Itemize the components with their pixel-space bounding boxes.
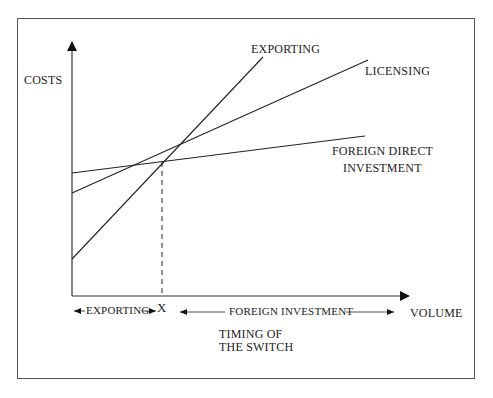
foreign-investment-region-label: FOREIGN INVESTMENT [229,305,353,317]
licensing-line-label: LICENSING [365,64,430,79]
licensing-line [72,60,368,193]
caption-line-2: THE SWITCH [219,340,293,355]
x-axis-label: VOLUME [410,306,463,321]
fdi-line [72,136,365,173]
exporting-line [72,57,263,259]
fdi-line-label-1: FOREIGN DIRECT [332,144,433,159]
exporting-line-label: EXPORTING [251,42,320,57]
fdi-line-label-2: INVESTMENT [343,161,422,176]
exporting-region-label: EXPORTING [86,304,149,316]
y-axis-label: COSTS [24,73,62,88]
switch-point-label: X [157,300,167,316]
